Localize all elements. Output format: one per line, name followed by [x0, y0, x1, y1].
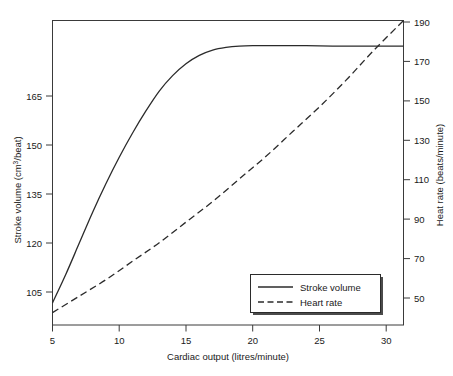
x-axis-tick-labels: 5 10 15 20 25 30: [50, 335, 392, 346]
right-tick-label: 110: [414, 174, 429, 185]
left-axis-title-main: Stroke volume (cm: [12, 164, 23, 243]
legend-label-stroke-volume: Stroke volume: [300, 282, 361, 293]
svg-text:Stroke volume (cm3/beat): Stroke volume (cm3/beat): [12, 136, 24, 243]
x-tick-label: 30: [381, 335, 392, 346]
left-tick-label: 120: [26, 238, 42, 249]
left-axis-title: Stroke volume (cm3/beat): [12, 136, 24, 243]
right-tick-label: 190: [414, 17, 430, 28]
figure-container: 165 150 135 120 105 Stroke volume (cm3/b…: [0, 0, 453, 376]
right-tick-label: 130: [414, 135, 430, 146]
x-axis-title: Cardiac output (litres/minute): [167, 351, 289, 362]
left-axis-tick-labels: 165 150 135 120 105: [26, 91, 42, 298]
left-tick-label: 165: [26, 91, 42, 102]
x-tick-label: 20: [247, 335, 258, 346]
legend-label-heart-rate: Heart rate: [300, 297, 342, 308]
right-tick-label: 70: [414, 253, 425, 264]
left-axis-ticks: [46, 96, 53, 292]
left-tick-label: 105: [26, 287, 42, 298]
x-tick-label: 15: [181, 335, 192, 346]
series-line-stroke-volume: [53, 46, 404, 303]
right-axis-tick-labels: 190 170 150 130 110 90 70 50: [414, 17, 430, 304]
x-tick-label: 10: [114, 335, 125, 346]
right-tick-label: 90: [414, 214, 425, 225]
left-tick-label: 150: [26, 140, 42, 151]
legend: Stroke volume Heart rate: [251, 275, 384, 316]
series-line-heart-rate: [53, 21, 404, 313]
x-tick-label: 25: [314, 335, 325, 346]
right-axis-title: Heat rate (beats/minute): [434, 124, 445, 226]
left-tick-label: 135: [26, 189, 42, 200]
right-tick-label: 50: [414, 293, 425, 304]
chart-canvas: 165 150 135 120 105 Stroke volume (cm3/b…: [0, 0, 453, 376]
right-tick-label: 150: [414, 95, 430, 106]
x-tick-label: 5: [50, 335, 55, 346]
right-tick-label: 170: [414, 56, 430, 67]
x-axis-ticks: [53, 325, 387, 332]
right-axis-ticks: [404, 22, 411, 298]
